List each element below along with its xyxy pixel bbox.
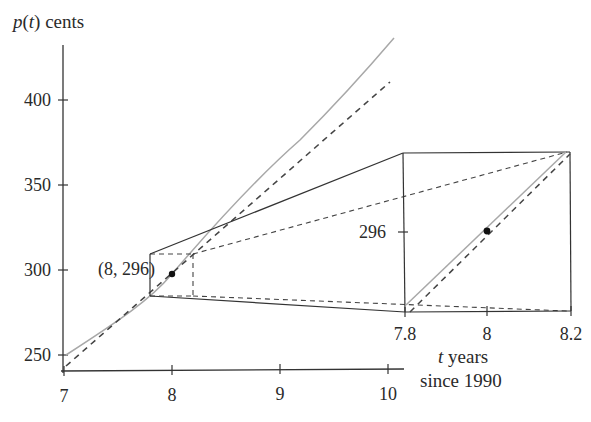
point-label: (8, 296) bbox=[98, 260, 155, 278]
price-curve bbox=[66, 38, 394, 355]
x-axis-label-var: t bbox=[438, 346, 443, 367]
y-axis-label-var: p bbox=[13, 11, 23, 32]
x-axis bbox=[61, 369, 404, 371]
inset-tangent bbox=[410, 154, 570, 312]
tangent-line bbox=[66, 82, 390, 366]
x-tick-label: 8 bbox=[152, 386, 192, 404]
y-tick-label: 250 bbox=[7, 346, 51, 364]
inset-x-tick-label: 7.8 bbox=[385, 325, 425, 343]
y-tick-label: 400 bbox=[7, 91, 51, 109]
x-axis-label-line2: since 1990 bbox=[420, 371, 502, 390]
x-axis-label-rest: years bbox=[448, 346, 488, 367]
y-axis-label-arg: t bbox=[29, 11, 34, 32]
connector-bottom-dashed bbox=[193, 296, 567, 311]
point-marker bbox=[169, 271, 175, 277]
inset-x-tick-label: 8 bbox=[467, 325, 507, 343]
x-tick-label: 7 bbox=[44, 387, 84, 405]
inset-ticks bbox=[398, 232, 571, 317]
inset-x-tick-label: 8.2 bbox=[551, 325, 591, 343]
x-tick-label: 9 bbox=[260, 385, 300, 403]
x-axis-label-line1: t years bbox=[438, 347, 488, 366]
inset-point-marker bbox=[484, 228, 491, 235]
inset-y-tick-label: 296 bbox=[359, 223, 386, 241]
connector-bottom-solid bbox=[150, 296, 405, 312]
y-axis-label: p(t) cents bbox=[13, 12, 84, 31]
chart-canvas bbox=[0, 0, 591, 422]
y-tick-label: 350 bbox=[7, 176, 51, 194]
x-tick-label: 10 bbox=[368, 385, 408, 403]
y-tick-label: 300 bbox=[7, 261, 51, 279]
y-axis-label-unit: cents bbox=[45, 11, 84, 32]
